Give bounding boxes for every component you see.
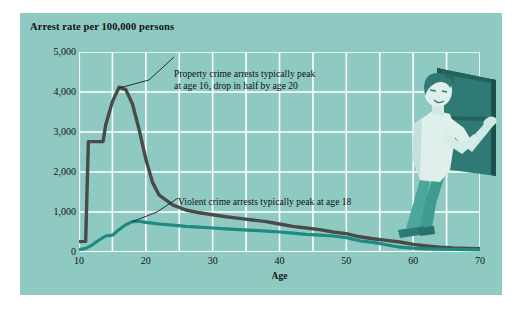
x-tick-label: 40 [275, 255, 285, 266]
y-tick-label: 2,000 [30, 166, 76, 177]
leader-line-violent [133, 198, 179, 222]
x-axis-title: Age [79, 271, 480, 281]
y-tick-label: 4,000 [30, 86, 76, 97]
y-tick-label: 0 [30, 246, 76, 257]
chart-title: Arrest rate per 100,000 persons [30, 21, 174, 32]
x-axis-tick-labels: 10203040506070 [79, 255, 480, 271]
annotation-leader-lines [119, 57, 178, 222]
figure-inner: Arrest rate per 100,000 persons 01,0002,… [20, 13, 502, 295]
x-tick-label: 50 [341, 255, 351, 266]
y-axis-tick-labels: 01,0002,0003,0004,0005,000 [24, 52, 76, 252]
figure-panel: Arrest rate per 100,000 persons 01,0002,… [20, 13, 502, 295]
annotation-property-crime: Property crime arrests typically peak at… [174, 68, 315, 91]
x-tick-label: 10 [74, 255, 84, 266]
x-tick-label: 30 [208, 255, 218, 266]
annotation-violent-crime: Violent crime arrests typically peak at … [178, 196, 351, 208]
y-tick-label: 1,000 [30, 206, 76, 217]
x-tick-label: 20 [141, 255, 151, 266]
y-tick-label: 5,000 [30, 46, 76, 57]
x-tick-label: 70 [475, 255, 485, 266]
x-tick-label: 60 [408, 255, 418, 266]
y-tick-label: 3,000 [30, 126, 76, 137]
